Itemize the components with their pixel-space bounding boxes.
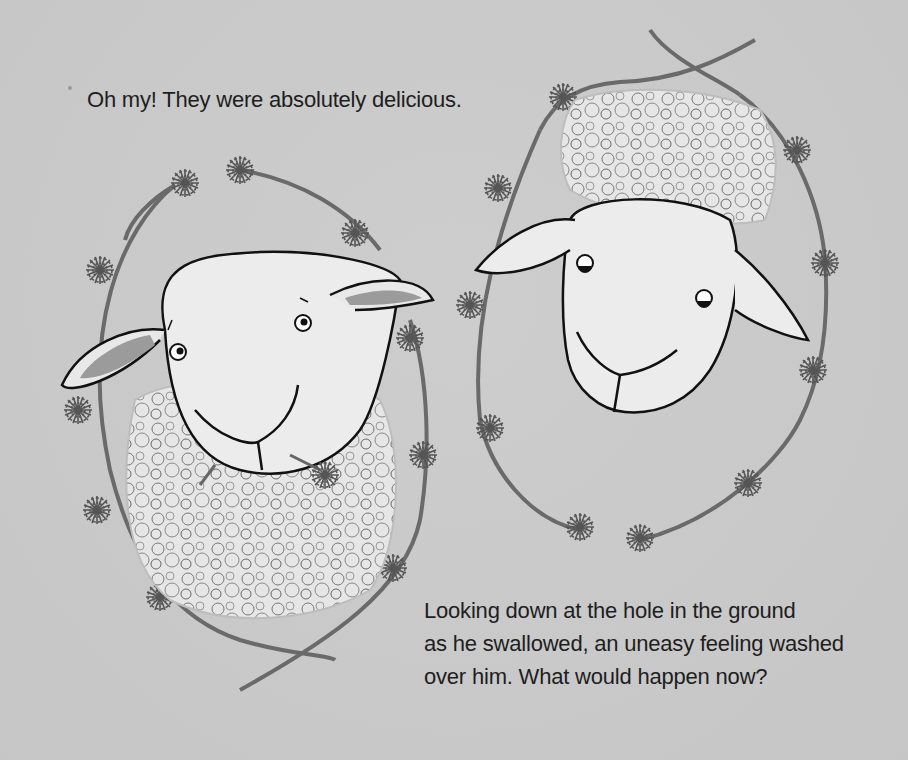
- caption-bottom: Looking down at the hole in the ground a…: [424, 594, 844, 693]
- caption-top: Oh my! They were absolutely delicious.: [87, 87, 462, 113]
- caption-bottom-line: as he swallowed, an uneasy feeling washe…: [424, 627, 844, 660]
- right-sheep: [476, 90, 808, 413]
- storybook-page: Oh my! They were absolutely delicious. L…: [0, 0, 908, 760]
- left-sheep: [62, 252, 433, 618]
- caption-bottom-line: over him. What would happen now?: [424, 660, 844, 693]
- caption-bottom-line: Looking down at the hole in the ground: [424, 594, 844, 627]
